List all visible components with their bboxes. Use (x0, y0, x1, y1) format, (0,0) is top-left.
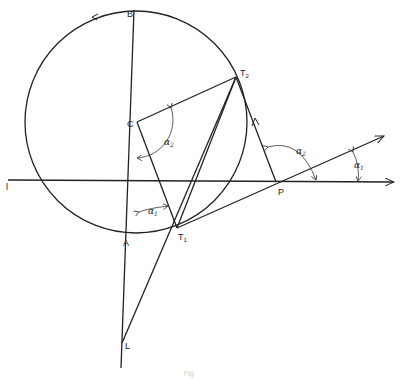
label-C: C (127, 119, 134, 129)
angle-arc-alpha2-p (268, 145, 316, 180)
label-B: B (127, 9, 133, 19)
label-L: L (125, 341, 130, 351)
label-T1: T1 (178, 232, 188, 243)
label-alpha2-center: α2 (164, 137, 174, 148)
angle-arc-alpha2-center (137, 108, 173, 158)
circle (25, 11, 247, 233)
geometry-diagram: B C T2 T1 A L P l α2 α2 α1 α1 Fig. (0, 0, 401, 379)
label-l: l (6, 182, 8, 192)
figure-caption: Fig. (184, 370, 196, 378)
line-l (8, 180, 394, 182)
label-A: A (123, 238, 129, 248)
label-P: P (278, 187, 284, 197)
label-alpha2-p: α2 (296, 146, 306, 157)
tangent-T2P (236, 77, 276, 182)
label-alpha1-right: α1 (354, 160, 364, 171)
line-BL (121, 10, 134, 368)
label-T2: T2 (240, 68, 250, 79)
